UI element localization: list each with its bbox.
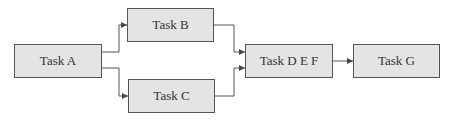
node-task-b: Task B: [127, 8, 214, 42]
edge-a-b: [102, 25, 127, 52]
edge-c-def: [215, 68, 245, 96]
edge-a-c: [102, 68, 128, 96]
node-label: Task B: [152, 17, 188, 33]
node-label: Task A: [40, 53, 76, 69]
node-label: Task D E F: [260, 53, 319, 69]
node-label: Task C: [153, 88, 189, 104]
node-label: Task G: [378, 53, 415, 69]
node-task-def: Task D E F: [245, 44, 333, 78]
node-task-a: Task A: [14, 44, 102, 78]
node-task-c: Task C: [128, 79, 215, 113]
node-task-g: Task G: [353, 44, 440, 78]
edge-b-def: [214, 25, 245, 52]
